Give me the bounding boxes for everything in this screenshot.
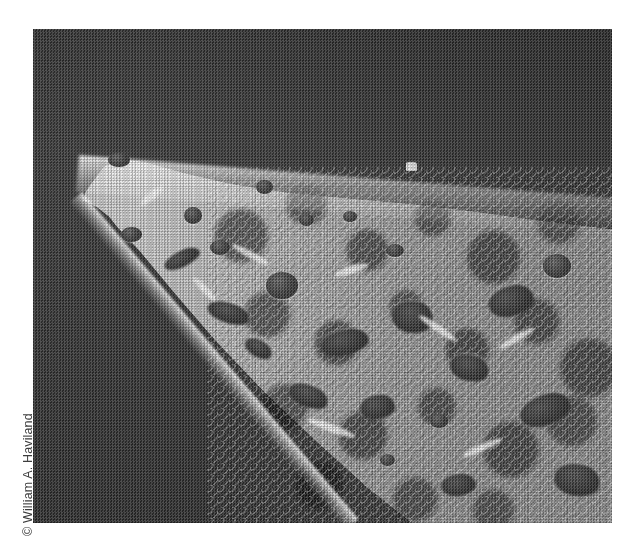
page-canvas: © William A. Haviland — [0, 0, 635, 551]
micrograph-figure — [33, 29, 612, 523]
